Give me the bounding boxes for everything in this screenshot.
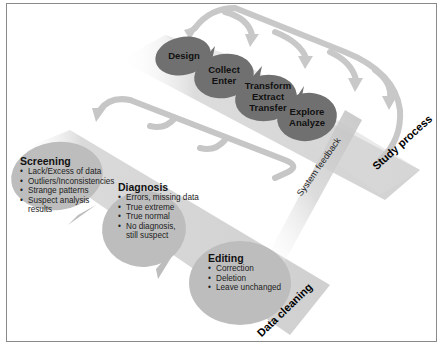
screening-title: Screening <box>20 155 140 167</box>
stage-line: Collect <box>201 64 247 75</box>
stage-design-line: Design <box>160 50 208 61</box>
stage-line: Extract <box>242 91 294 102</box>
stage-explore-analyze: Explore Analyze <box>284 106 330 128</box>
editing-list: Correction Deletion Leave unchanged <box>208 264 298 293</box>
list-item: Leave unchanged <box>208 283 298 293</box>
list-item: Suspect analysis results <box>20 196 92 215</box>
list-item: Lack/Excess of data <box>20 167 140 177</box>
list-item: True extreme <box>118 203 228 213</box>
stage-diagnosis: Diagnosis Errors, missing data True extr… <box>118 181 228 241</box>
editing-title: Editing <box>208 252 298 264</box>
stage-line: Analyze <box>284 117 330 128</box>
diagnosis-list: Errors, missing data True extreme True n… <box>118 193 228 241</box>
stage-line: Enter <box>201 75 247 86</box>
list-item: True normal <box>118 212 228 222</box>
list-item: Deletion <box>208 274 298 284</box>
stage-design: Design <box>160 50 208 61</box>
list-item: Correction <box>208 264 298 274</box>
list-item: No diagnosis, still suspect <box>118 222 182 241</box>
stage-editing: Editing Correction Deletion Leave unchan… <box>208 252 298 293</box>
stage-collect-enter: Collect Enter <box>201 64 247 86</box>
stage-line: Transform <box>242 80 294 91</box>
stage-line: Explore <box>284 106 330 117</box>
diagnosis-title: Diagnosis <box>118 181 228 193</box>
return-arrowhead <box>92 108 106 122</box>
list-item: Errors, missing data <box>118 193 228 203</box>
